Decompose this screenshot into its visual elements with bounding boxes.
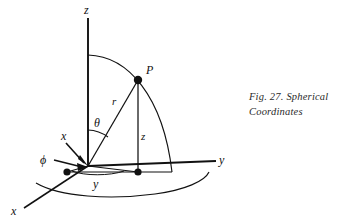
point-p-marker — [134, 76, 142, 84]
xy-plane-outer-arc — [36, 172, 209, 197]
meridian-arc — [88, 55, 172, 172]
radius-label-r: r — [112, 95, 117, 107]
y-axis-label: y — [218, 153, 225, 167]
theta-angle-label: θ — [94, 116, 100, 130]
projection-line-rho — [88, 166, 138, 172]
figure-container: z y x P r z θ ϕ x y Fig. 27. Spherical C… — [0, 0, 353, 224]
phi-angle-label: ϕ — [40, 153, 46, 167]
point-p-label: P — [145, 63, 154, 77]
z-axis-label: z — [83, 3, 89, 17]
x-component-label: x — [60, 129, 67, 143]
projection-point-marker — [134, 168, 141, 175]
x-axis-foot-marker — [63, 168, 70, 175]
figure-caption: Fig. 27. Spherical Coordinates — [249, 89, 349, 119]
y-component-label: y — [92, 177, 99, 191]
height-label-z: z — [140, 130, 146, 142]
figure-caption-line-2: Coordinates — [249, 104, 349, 119]
figure-caption-line-1: Fig. 27. Spherical — [249, 89, 349, 104]
x-axis-label: x — [10, 204, 17, 218]
y-axis-line — [88, 161, 216, 166]
